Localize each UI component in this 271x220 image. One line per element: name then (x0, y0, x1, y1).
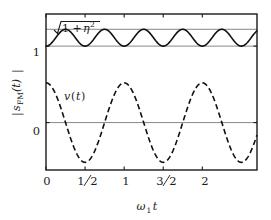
y-axis-bar-right: | (10, 69, 24, 73)
vt-symbol: v (64, 90, 71, 103)
x-tick-label-1: 1 (122, 174, 129, 188)
x-tick-three-half-denominator: 2 (169, 174, 176, 188)
x-tick-half-denominator: 2 (90, 174, 97, 188)
modulation-annotation: v ( t ) (64, 90, 85, 103)
y-tick-label-1: 1 (33, 45, 40, 59)
radicand-exponent: 2 (90, 20, 95, 29)
y-axis-bar-left: | (10, 112, 24, 116)
figure-container: 1 0 0 1 2 1 3 2 2 ω 1 t | s FM (t) | (0, 0, 271, 220)
vt-close-paren: ) (81, 90, 85, 103)
y-axis-argument: (t) (10, 79, 23, 92)
plot-svg: 1 0 0 1 2 1 3 2 2 ω 1 t | s FM (t) | (0, 0, 271, 220)
x-tick-label-2: 2 (201, 174, 208, 188)
radicand-eta-symbol: η (83, 22, 90, 35)
y-tick-label-0: 0 (33, 124, 40, 138)
radicand-prefix: 1 + (62, 22, 82, 35)
x-tick-label-0: 0 (43, 174, 50, 188)
y-axis-subscript: FM (16, 92, 25, 105)
x-axis-omega: ω (137, 200, 146, 213)
x-axis-time-var: t (153, 200, 158, 213)
x-tick-three-half-numerator: 3 (156, 174, 163, 188)
x-axis-omega-subscript: 1 (147, 206, 152, 215)
figure-background (0, 0, 271, 220)
vt-open-paren: ( (71, 90, 75, 103)
x-tick-half-numerator: 1 (77, 174, 84, 188)
